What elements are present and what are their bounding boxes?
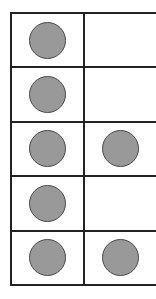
counter-circle-icon [29, 76, 66, 113]
ten-frame-diagram [0, 0, 156, 299]
frame-cell-r4-c1 [12, 177, 85, 231]
frame-cell-r5-c2 [85, 232, 156, 286]
frame-cell-r4-c2 [85, 177, 156, 231]
counter-circle-icon [29, 22, 66, 59]
counter-circle-icon [29, 185, 66, 222]
counter-circle-icon [102, 130, 139, 167]
frame-cell-r2-c1 [12, 68, 85, 122]
frame-cell-r2-c2 [85, 68, 156, 122]
frame-cell-r1-c1 [12, 14, 85, 68]
frame-cell-r3-c2 [85, 123, 156, 177]
frame-cell-r3-c1 [12, 123, 85, 177]
counter-circle-icon [29, 130, 66, 167]
frame-cell-r1-c2 [85, 14, 156, 68]
ten-frame-grid [10, 12, 156, 286]
counter-circle-icon [29, 239, 66, 276]
frame-cell-r5-c1 [12, 232, 85, 286]
counter-circle-icon [102, 239, 139, 276]
